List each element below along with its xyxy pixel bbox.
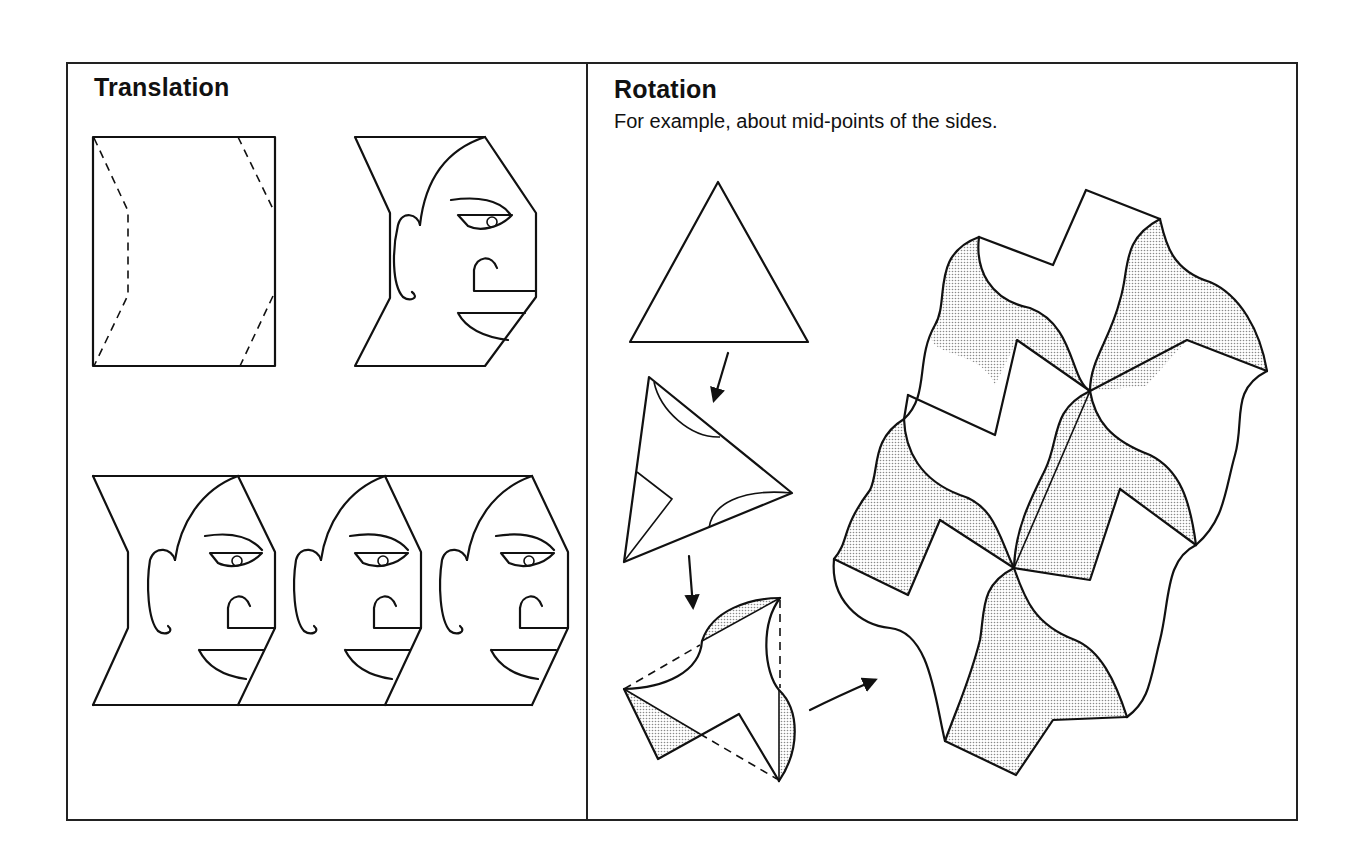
triangle-with-arcs: [624, 377, 792, 562]
arrow-2: [689, 556, 693, 607]
arrow-1: [714, 353, 728, 400]
arrow-3: [810, 680, 875, 710]
face-1: [148, 476, 275, 705]
rotated-shaded-tile: [624, 598, 795, 781]
equilateral-triangle: [630, 182, 808, 342]
diagram-artwork: [0, 0, 1358, 853]
dashed-rectangle: [93, 137, 275, 366]
face-tile: [355, 137, 536, 366]
face-3: [440, 476, 568, 705]
face-2: [294, 476, 421, 705]
rotation-tessellation: [834, 190, 1267, 775]
translated-face-strip: [93, 476, 568, 705]
